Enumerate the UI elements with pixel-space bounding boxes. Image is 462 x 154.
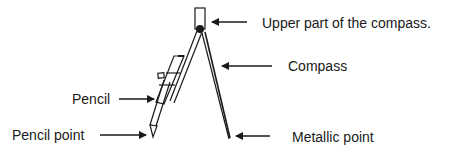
compass-drawing	[150, 8, 230, 139]
label-metallic-point: Metallic point	[292, 129, 374, 145]
label-compass: Compass	[288, 58, 347, 74]
label-upper-part: Upper part of the compass.	[262, 15, 431, 31]
pencil-point	[150, 125, 157, 137]
label-pencil-point: Pencil point	[12, 127, 84, 143]
compass-right-leg	[202, 32, 230, 139]
label-pencil: Pencil	[72, 91, 110, 107]
arrows	[100, 22, 272, 136]
pencil-clamp	[156, 56, 184, 104]
